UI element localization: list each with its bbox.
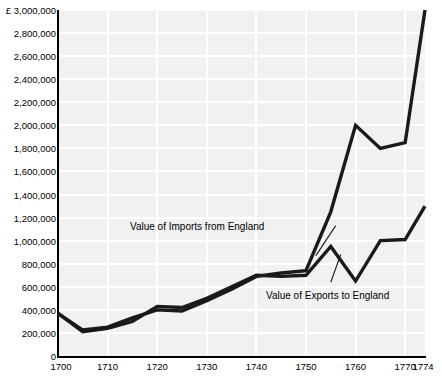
annotation-imports-label: Value of Imports from England [130, 221, 264, 232]
annotation-exports-label: Value of Exports to England [266, 290, 389, 301]
leader-line-exports [331, 255, 341, 283]
series-layer [0, 0, 442, 377]
chart-container: 0200,000400,000600,000800,0001,000,0001,… [0, 0, 442, 377]
